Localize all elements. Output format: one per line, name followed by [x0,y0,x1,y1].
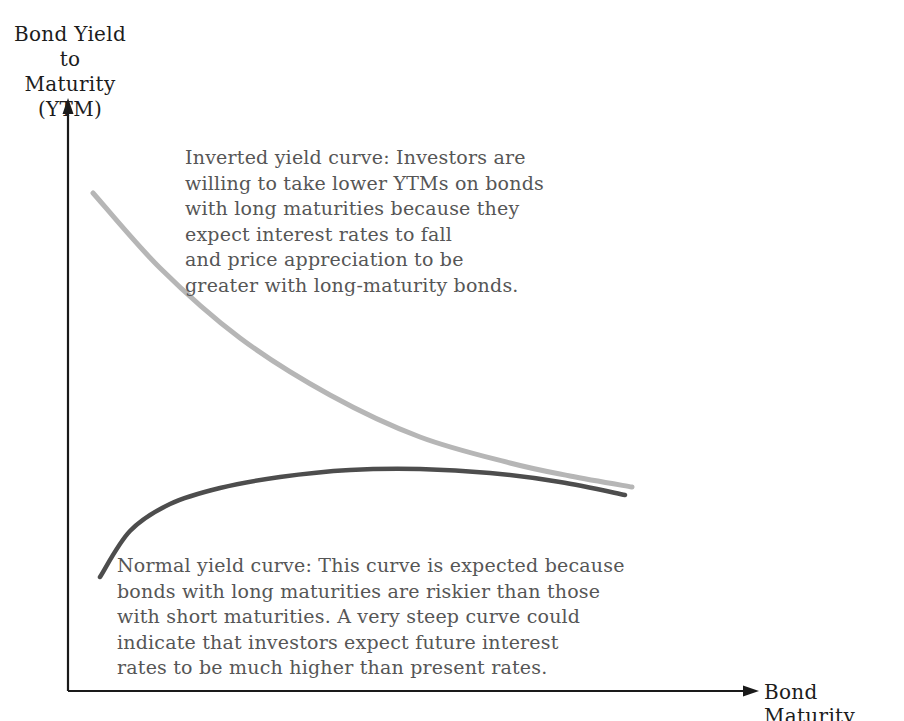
normal-curve-annotation: Normal yield curve: This curve is expect… [117,553,625,681]
annotation-line: greater with long-maturity bonds. [185,273,544,299]
y-axis-label-line: Bond Yield to [2,22,138,72]
annotation-line: Inverted yield curve: Investors are [185,145,544,171]
annotation-line: indicate that investors expect future in… [117,630,625,656]
annotation-line: rates to be much higher than present rat… [117,655,625,681]
annotation-line: willing to take lower YTMs on bonds [185,171,544,197]
annotation-line: and price appreciation to be [185,247,544,273]
y-axis-label-line: (YTM) [2,97,138,122]
annotation-line: with short maturities. A very steep curv… [117,604,625,630]
inverted-curve-annotation: Inverted yield curve: Investors are will… [185,145,544,298]
yield-curve-figure: Bond Yield to Maturity (YTM) Bond Maturi… [0,0,904,721]
annotation-line: expect interest rates to fall [185,222,544,248]
y-axis-label-line: Maturity [2,72,138,97]
x-axis-label: Bond Maturity [764,680,904,721]
y-axis-label: Bond Yield to Maturity (YTM) [2,22,138,122]
annotation-line: with long maturities because they [185,196,544,222]
annotation-line: Normal yield curve: This curve is expect… [117,553,625,579]
x-axis-arrowhead-icon [743,686,759,697]
annotation-line: bonds with long maturities are riskier t… [117,579,625,605]
